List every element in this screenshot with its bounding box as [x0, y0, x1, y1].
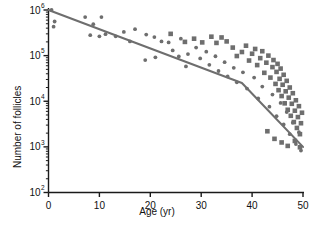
- y-tick-exponent: 5: [41, 47, 45, 54]
- data-point-square: [279, 140, 284, 145]
- data-point-square: [258, 56, 263, 61]
- data-point-square: [293, 108, 298, 113]
- data-point-circle: [271, 93, 275, 97]
- data-point-circle: [144, 33, 148, 37]
- data-point-circle: [223, 60, 227, 64]
- data-point-square: [266, 53, 271, 58]
- data-point-square: [168, 32, 173, 37]
- y-tick-exponent: 3: [41, 139, 45, 146]
- data-point-square: [287, 85, 292, 90]
- y-axis-title: Number of follicles: [12, 86, 23, 168]
- data-point-square: [285, 107, 290, 112]
- data-point-circle: [214, 54, 218, 58]
- data-point-square: [288, 113, 293, 118]
- data-point-square: [244, 43, 249, 48]
- data-point-square: [214, 41, 219, 46]
- data-point-square: [297, 104, 302, 109]
- data-point-square: [265, 129, 270, 134]
- data-point-square: [278, 66, 283, 71]
- data-point-square: [277, 77, 282, 82]
- data-point-circle: [217, 69, 221, 73]
- data-point-square: [291, 91, 296, 96]
- data-point-square: [230, 45, 235, 50]
- data-point-square: [247, 58, 252, 63]
- y-tick-label: 10: [29, 50, 41, 61]
- data-point-square: [285, 144, 290, 149]
- data-point-square: [286, 95, 291, 100]
- data-point-circle: [179, 37, 183, 41]
- data-point-circle: [100, 15, 104, 19]
- data-point-circle: [207, 63, 211, 67]
- data-point-square: [281, 72, 286, 77]
- data-point-circle: [83, 15, 87, 19]
- data-point-square: [250, 51, 255, 56]
- data-point-square: [276, 88, 281, 93]
- trend-line: [49, 10, 304, 147]
- y-tick-exponent: 4: [41, 93, 45, 100]
- data-point-square: [183, 40, 188, 45]
- data-point-circle: [143, 58, 147, 62]
- data-point-square: [280, 82, 285, 87]
- data-point-square: [292, 120, 297, 125]
- data-point-circle: [268, 105, 272, 109]
- data-point-circle: [241, 70, 245, 74]
- data-point-square: [275, 62, 280, 67]
- data-point-circle: [133, 27, 137, 31]
- y-tick-label: 10: [29, 187, 41, 198]
- y-tick-label: 10: [29, 141, 41, 152]
- data-point-circle: [52, 25, 56, 29]
- data-point-circle: [122, 30, 126, 34]
- data-point-square: [200, 40, 205, 45]
- data-point-circle: [152, 35, 156, 39]
- data-point-circle: [53, 20, 57, 24]
- data-point-circle: [88, 33, 92, 37]
- data-point-square: [224, 39, 229, 44]
- data-point-square: [279, 94, 284, 99]
- data-point-square: [255, 63, 260, 68]
- data-point-circle: [98, 34, 102, 38]
- data-point-circle: [232, 66, 236, 70]
- data-point-circle: [184, 65, 188, 69]
- follicle-decline-scatter-chart: 01020304050102103104105106: [0, 0, 314, 230]
- data-point-circle: [279, 101, 283, 105]
- data-point-square: [272, 137, 277, 142]
- data-point-square: [284, 79, 289, 84]
- data-point-square: [283, 89, 288, 94]
- data-point-square: [209, 34, 214, 39]
- data-point-circle: [153, 55, 157, 59]
- data-point-circle: [186, 52, 190, 56]
- data-point-circle: [252, 76, 256, 80]
- data-point-square: [262, 71, 267, 76]
- data-point-square: [299, 121, 304, 126]
- data-point-square: [260, 49, 265, 54]
- data-point-square: [290, 101, 295, 106]
- trend-line-group: [49, 10, 304, 147]
- data-point-square: [270, 65, 275, 70]
- data-point-square: [192, 36, 197, 41]
- data-point-square: [264, 60, 269, 65]
- data-point-square: [274, 70, 279, 75]
- data-point-square: [273, 82, 278, 87]
- data-point-square: [240, 50, 245, 55]
- data-point-circle: [198, 56, 202, 60]
- data-point-square: [271, 58, 276, 63]
- y-tick-label: 10: [29, 96, 41, 107]
- data-point-square: [295, 126, 300, 131]
- data-point-circle: [204, 50, 208, 54]
- figure-container: 01020304050102103104105106 Age (yr) Numb…: [0, 0, 314, 230]
- data-point-square: [253, 47, 258, 52]
- data-point-circle: [167, 40, 171, 44]
- data-point-square: [235, 54, 240, 59]
- data-point-square: [300, 110, 305, 115]
- data-point-circle: [171, 49, 175, 53]
- data-points-group: [50, 8, 305, 152]
- y-tick-exponent: 6: [41, 2, 45, 9]
- data-point-square: [296, 115, 301, 120]
- y-tick-exponent: 2: [41, 184, 45, 191]
- data-point-square: [219, 35, 224, 40]
- data-point-square: [268, 75, 273, 80]
- data-point-circle: [160, 40, 164, 44]
- data-point-square: [298, 132, 303, 137]
- data-point-square: [294, 98, 299, 103]
- data-point-circle: [260, 85, 264, 89]
